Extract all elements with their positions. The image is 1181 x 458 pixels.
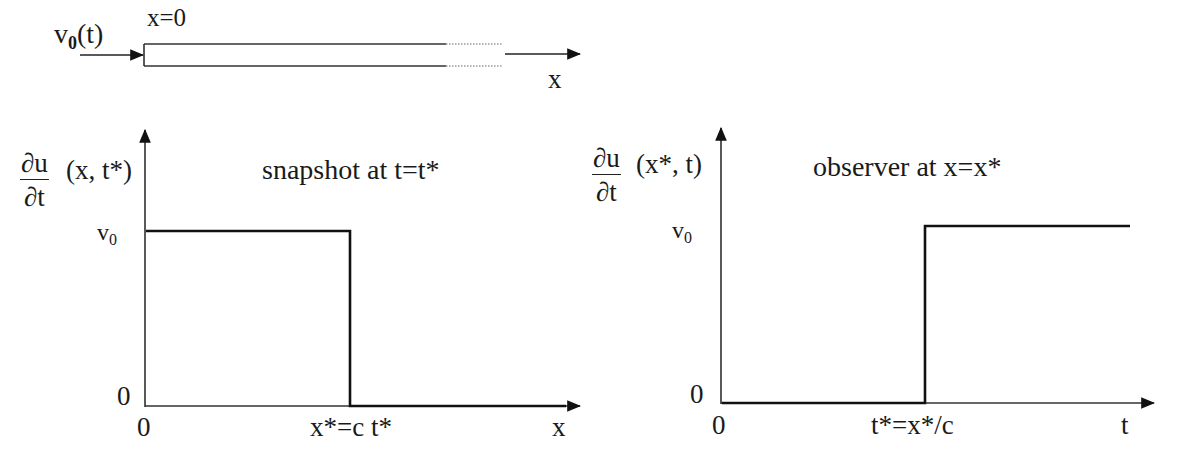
left-ytick-v0-base: v: [97, 219, 109, 245]
diagram-graphics: [0, 0, 1181, 458]
left-ylabel-fraction: ∂u ∂t: [20, 150, 49, 211]
left-ylabel-args: (x, t*): [66, 157, 132, 184]
right-ylabel-fraction: ∂u ∂t: [592, 145, 621, 206]
left-xtick-step: x*=c t*: [310, 414, 392, 441]
input-velocity-label: v0(t): [54, 20, 103, 52]
left-ylabel-numerator: ∂u: [20, 150, 49, 180]
left-ytick-v0: v0: [97, 220, 117, 248]
left-ylabel-denominator: ∂t: [20, 180, 49, 211]
input-velocity-symbol: v: [54, 18, 68, 49]
right-ytick-v0: v0: [672, 218, 692, 246]
right-plot-title: observer at x=x*: [813, 153, 1001, 181]
bar-schematic: [80, 44, 580, 66]
right-xtick-zero: 0: [712, 412, 726, 439]
left-plot-title: snapshot at t=t*: [262, 156, 440, 184]
right-ylabel-numerator: ∂u: [592, 145, 621, 175]
left-ytick-v0-sub: 0: [109, 231, 117, 248]
right-plot-curve: [722, 226, 1130, 403]
right-ytick-zero: 0: [690, 381, 704, 408]
origin-label: x=0: [147, 5, 186, 30]
left-plot-curve: [146, 231, 566, 406]
right-ylabel-args: (x*, t): [636, 151, 702, 178]
left-xlabel: x: [552, 414, 566, 441]
right-xtick-step: t*=x*/c: [871, 412, 954, 439]
top-axis-label: x: [548, 66, 562, 93]
left-ytick-zero: 0: [117, 383, 131, 410]
right-ytick-v0-sub: 0: [684, 229, 692, 246]
input-velocity-arg: (t): [77, 18, 103, 49]
right-ylabel-denominator: ∂t: [592, 175, 621, 206]
left-xtick-zero: 0: [137, 414, 151, 441]
right-xlabel: t: [1121, 412, 1129, 439]
right-ytick-v0-base: v: [672, 217, 684, 243]
input-velocity-subscript: 0: [68, 33, 77, 53]
